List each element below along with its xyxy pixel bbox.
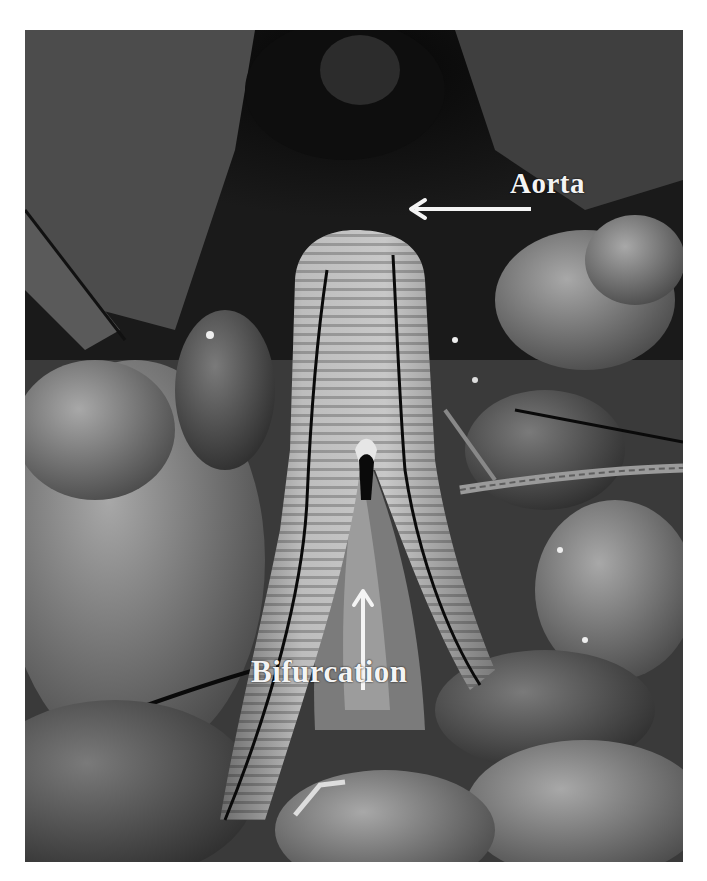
- photo-illustration: [25, 30, 683, 862]
- surgical-photo: [25, 30, 683, 862]
- bifurcation-label: Bifurcation: [251, 654, 408, 690]
- aorta-label: Aorta: [510, 167, 585, 200]
